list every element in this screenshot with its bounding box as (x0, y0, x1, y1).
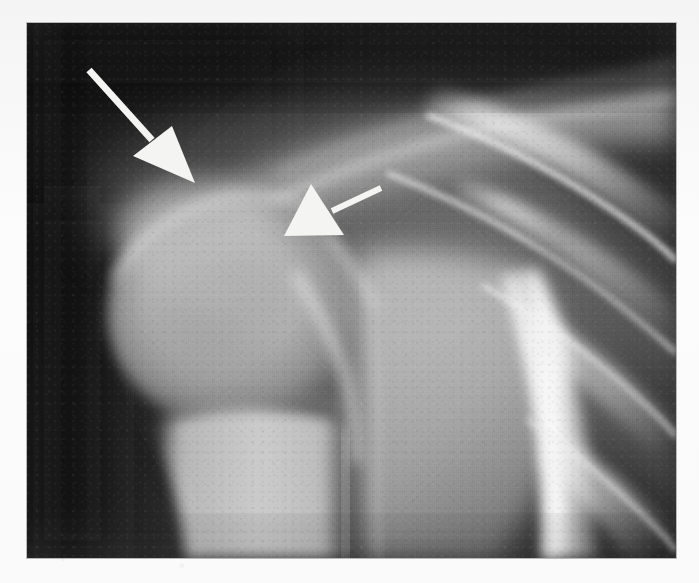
xray-image (27, 23, 676, 558)
vignette-bottom (27, 528, 676, 558)
screenshot-root (0, 0, 699, 583)
lesion-lucency-b (217, 251, 301, 319)
xray-render (27, 23, 676, 558)
vignette-left (27, 23, 67, 558)
vignette-top (27, 23, 676, 83)
